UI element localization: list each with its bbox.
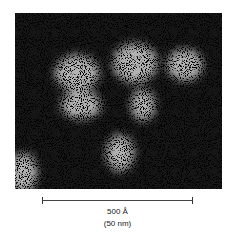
scale-bar-label-nm: (50 nm) xyxy=(2,219,231,229)
scale-bar xyxy=(42,199,193,202)
scale-bar-right-tick xyxy=(192,197,193,204)
scale-bar-left-tick xyxy=(42,197,43,204)
scale-bar-line xyxy=(42,200,193,201)
electron-micrograph xyxy=(15,13,222,189)
micrograph-texture xyxy=(15,13,222,189)
scale-bar-label-angstrom: 500 Å xyxy=(2,207,231,217)
